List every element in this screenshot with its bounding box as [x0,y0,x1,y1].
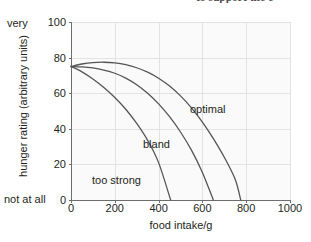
curve-label-too-strong: too strong [92,174,141,186]
curve-label-optimal: optimal [190,103,225,115]
y-axis-label: hunger rating (arbitrary units) [17,21,29,191]
curve-label-bland: bland [143,138,170,150]
curve-layer [0,0,311,242]
chart-figure: 02004006008001000 020406080100 food inta… [0,0,311,242]
x-axis-label: food intake/g [71,219,291,231]
y-axis-top-label: very [7,17,28,29]
y-axis-bottom-label: not at all [4,193,46,205]
